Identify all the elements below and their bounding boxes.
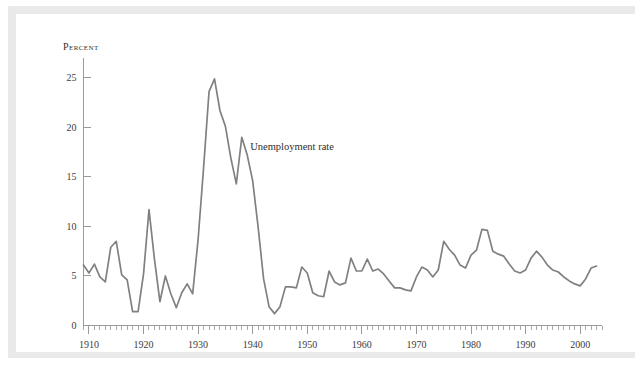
y-tick-label: 20	[67, 122, 77, 133]
x-tick-label: 1970	[406, 339, 426, 350]
y-tick-label: 5	[72, 270, 77, 281]
chart-svg: 0510152025 19101920193019401950196019701…	[0, 0, 643, 371]
unemployment-rate-chart: 0510152025 19101920193019401950196019701…	[0, 0, 643, 371]
x-tick-label: 1980	[461, 339, 481, 350]
x-tick-label: 1990	[516, 339, 536, 350]
y-axis: 0510152025	[67, 58, 91, 331]
y-tick-label: 0	[72, 320, 77, 331]
series-unemployment-rate	[84, 79, 597, 314]
series-line-unemployment-rate	[84, 79, 597, 314]
x-tick-label: 2000	[570, 339, 590, 350]
x-axis: 1910192019301940195019601970198019902000	[79, 326, 602, 350]
y-tick-label: 10	[67, 221, 77, 232]
x-tick-label: 1950	[297, 339, 317, 350]
y-axis-title: Percent	[63, 41, 99, 52]
x-tick-label: 1930	[188, 339, 208, 350]
x-tick-label: 1940	[243, 339, 263, 350]
x-tick-label: 1910	[79, 339, 99, 350]
y-tick-label: 25	[67, 72, 77, 83]
x-tick-label: 1920	[134, 339, 154, 350]
series-annotation-label: Unemployment rate	[250, 141, 334, 152]
y-tick-label: 15	[67, 171, 77, 182]
x-tick-label: 1960	[352, 339, 372, 350]
figure-root: 0510152025 19101920193019401950196019701…	[0, 0, 643, 371]
